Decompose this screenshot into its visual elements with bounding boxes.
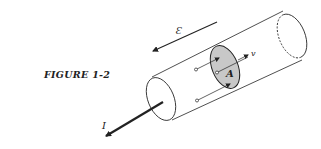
area-label: A xyxy=(225,68,234,79)
cylinder-conductor-diagram: Ɛ I v A xyxy=(0,0,321,149)
current-label: I xyxy=(101,120,107,131)
current-arrow xyxy=(106,102,163,136)
electric-field-arrow xyxy=(153,22,217,51)
right-end-cap xyxy=(271,10,312,62)
cross-section-area xyxy=(205,41,246,92)
electric-field-label: Ɛ xyxy=(175,25,182,36)
velocity-label: v xyxy=(251,49,256,58)
left-end-cap xyxy=(141,73,182,124)
